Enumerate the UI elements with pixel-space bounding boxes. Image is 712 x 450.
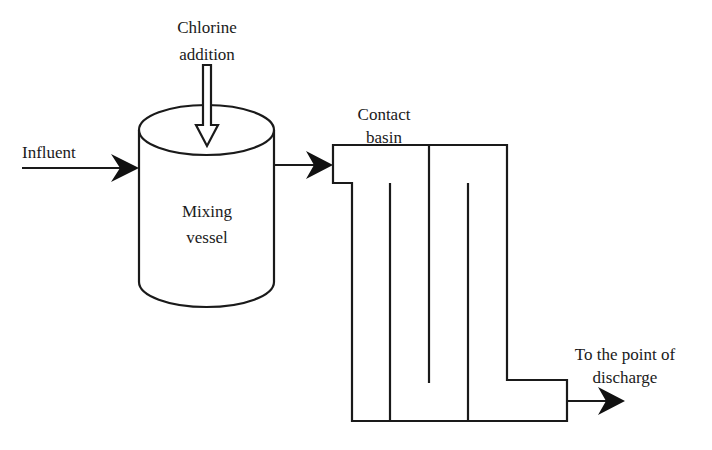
- flow-diagram: Chlorine addition Mixing vessel Influent…: [0, 0, 712, 450]
- chlorine-label-line1: Chlorine: [177, 18, 237, 37]
- influent-label: Influent: [22, 143, 76, 162]
- mixing-vessel-label-line1: Mixing: [182, 202, 233, 221]
- contact-basin: [333, 145, 567, 421]
- discharge-label-line2: discharge: [593, 368, 658, 387]
- discharge-label-line1: To the point of: [575, 345, 676, 364]
- transfer-arrow-icon: [274, 151, 333, 179]
- contact-basin-label-line1: Contact: [358, 105, 411, 124]
- discharge-arrow-icon: [567, 387, 625, 415]
- mixing-vessel-label-line2: vessel: [186, 228, 228, 247]
- chlorine-label-line2: addition: [179, 45, 235, 64]
- contact-basin-outline: [333, 145, 567, 421]
